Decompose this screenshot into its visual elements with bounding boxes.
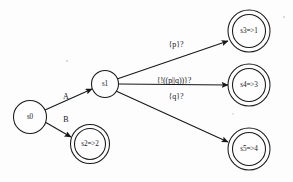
transition-label-s1-s3: {p}?: [168, 40, 184, 49]
state-label-s4: s4=>3: [240, 81, 258, 89]
transition-label-s0-s1: A: [63, 92, 69, 101]
scan-speck: [232, 113, 234, 115]
scan-speck: [283, 16, 285, 18]
states-layer: s0 s1 s2=>2 s3=>1 s4=>3: [14, 10, 271, 170]
state-label-s1: s1: [102, 80, 109, 88]
transition-s1-s4[interactable]: {!((p||q))}?: [119, 76, 228, 86]
state-label-s3: s3=>1: [240, 27, 258, 35]
scan-speck: [66, 60, 68, 62]
transitions-layer: A B {p}? {!((p||q))}? {q}?: [45, 40, 228, 143]
transition-label-s1-s5: {q}?: [168, 92, 184, 101]
state-label-s2: s2=>2: [81, 140, 99, 148]
transition-label-s1-s4: {!((p||q))}?: [157, 76, 192, 85]
state-node-s3[interactable]: s3=>1: [228, 10, 270, 52]
state-node-s5[interactable]: s5=>4: [228, 128, 270, 170]
state-label-s0: s0: [27, 113, 34, 121]
transition-arrow-s0-s2: [45, 122, 71, 137]
state-node-s2[interactable]: s2=>2: [71, 125, 110, 164]
state-node-s4[interactable]: s4=>3: [228, 64, 270, 106]
transition-label-s0-s2: B: [63, 115, 68, 124]
state-machine-diagram: A B {p}? {!((p||q))}? {q}?: [0, 0, 293, 182]
transition-s0-s1[interactable]: A: [45, 89, 92, 110]
transition-s0-s2[interactable]: B: [45, 115, 71, 138]
state-node-s0[interactable]: s0: [14, 101, 47, 134]
state-node-s1[interactable]: s1: [92, 71, 119, 98]
state-label-s5: s5=>4: [240, 145, 258, 153]
transition-s1-s5[interactable]: {q}?: [116, 91, 228, 142]
diagram-canvas: A B {p}? {!((p||q))}? {q}?: [0, 0, 293, 182]
transition-s1-s3[interactable]: {p}?: [117, 40, 228, 80]
